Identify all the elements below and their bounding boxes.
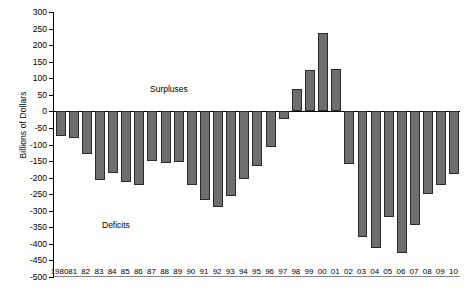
bar [318,33,328,111]
y-axis-tick-label: 50 [38,91,47,100]
bar-slot [330,12,343,276]
bar-slot [54,12,67,276]
bar-slot [369,12,382,276]
y-axis-tick-label: 150 [33,57,47,66]
y-axis-tick-label: 0 [42,107,47,116]
bar [436,111,446,185]
y-axis-tick-label: -450 [30,256,47,265]
bar-slot [93,12,106,276]
bar [371,111,381,248]
x-axis-tick-label: 87 [147,268,156,276]
bar-slot [212,12,225,276]
bar-slot [303,12,316,276]
bar [108,111,118,172]
x-axis-tick-label: 92 [213,268,222,276]
x-axis-tick-label: 03 [357,268,366,276]
y-axis-tick-label: 100 [33,74,47,83]
bar-slot [172,12,185,276]
annotation-surpluses: Surpluses [150,84,188,94]
bar [305,70,315,112]
bar [82,111,92,153]
x-axis-tick-label: 05 [383,268,392,276]
bar [226,111,236,195]
bar-slot [238,12,251,276]
x-axis-tick-label: 1980 [51,268,69,276]
bar [213,111,223,207]
bar [187,111,197,184]
bar-slot [408,12,421,276]
y-axis-tick-label: -300 [30,207,47,216]
bar [279,111,289,118]
x-axis-tick-label: 98 [291,268,300,276]
x-axis-tick-label: 91 [200,268,209,276]
y-axis-title: Billions of Dollars [18,60,28,190]
bar [384,111,394,216]
bar-slot [67,12,80,276]
bar-slot [382,12,395,276]
plot-area: 300250200150100500-50-100-150-200-250-30… [53,12,460,277]
x-axis-tick-label: 88 [160,268,169,276]
y-axis-tick-label: -50 [35,124,47,133]
y-axis-tick-label: -100 [30,140,47,149]
bar [147,111,157,161]
bar [292,89,302,112]
x-axis-tick-label: 10 [449,268,458,276]
bar-slot [435,12,448,276]
x-axis-tick-label: 02 [344,268,353,276]
bar [121,111,131,181]
x-axis-tick-label: 82 [81,268,90,276]
x-axis-tick-label: 04 [370,268,379,276]
x-axis-tick-label: 84 [108,268,117,276]
y-axis-tick-label: -150 [30,157,47,166]
bar [266,111,276,146]
bar [449,111,459,174]
bar-slot [422,12,435,276]
annotation-deficits: Deficits [102,220,130,230]
bar [344,111,354,163]
y-axis-tick-label: 250 [33,24,47,33]
bar-slot [290,12,303,276]
x-axis-tick-label: 86 [134,268,143,276]
bar-slot [343,12,356,276]
bar-slot [448,12,461,276]
bar-slot [198,12,211,276]
x-axis-tick-label: 81 [68,268,77,276]
bar [358,111,368,236]
bar [56,111,66,136]
bar [174,111,184,162]
y-axis-tick-label: -250 [30,190,47,199]
x-axis-tick-label: 08 [423,268,432,276]
x-axis-tick-label: 94 [239,268,248,276]
x-axis-tick-label: 09 [436,268,445,276]
bar-slot [395,12,408,276]
x-axis-tick-label: 07 [410,268,419,276]
bar-series [54,12,460,276]
bar-slot [80,12,93,276]
bar-slot [107,12,120,276]
bar [410,111,420,225]
x-axis-tick-label: 93 [226,268,235,276]
bar [161,111,171,162]
bar [69,111,79,137]
bar-slot [159,12,172,276]
x-axis-tick-label: 90 [186,268,195,276]
bar-slot [251,12,264,276]
y-axis-tick-label: -200 [30,173,47,182]
y-axis-tick-label: 300 [33,8,47,17]
bar [134,111,144,184]
y-axis-tick-label: -350 [30,223,47,232]
y-axis-tick [49,277,54,278]
bar [423,111,433,193]
bar [397,111,407,253]
bar-slot [225,12,238,276]
budget-surplus-deficit-bar-chart: Billions of Dollars 300250200150100500-5… [0,0,468,306]
x-axis-tick-label: 83 [94,268,103,276]
x-axis-tick-label: 01 [331,268,340,276]
y-axis-tick-label: -400 [30,240,47,249]
x-axis-tick-label: 95 [252,268,261,276]
bar-slot [133,12,146,276]
x-axis-tick-label: 85 [121,268,130,276]
bar-slot [120,12,133,276]
x-axis-tick-label: 89 [173,268,182,276]
x-axis-tick-label: 00 [318,268,327,276]
